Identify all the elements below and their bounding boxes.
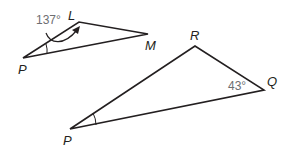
arrowhead-icon bbox=[72, 26, 80, 34]
triangle-plm bbox=[23, 22, 148, 58]
vertex-label-p-large: P bbox=[63, 133, 72, 148]
vertex-label-q: Q bbox=[267, 74, 277, 89]
vertex-label-r: R bbox=[190, 28, 199, 43]
vertex-label-p-small: P bbox=[18, 62, 27, 77]
angle-arc-p-small bbox=[46, 44, 47, 54]
angle-label-43: 43° bbox=[228, 79, 246, 93]
angle-pointer-arrow bbox=[46, 30, 77, 42]
vertex-label-l: L bbox=[68, 8, 75, 23]
vertex-label-m: M bbox=[145, 38, 156, 53]
congruent-triangles-diagram: 137° L M P 43° R Q P bbox=[0, 0, 289, 149]
angle-label-137: 137° bbox=[36, 13, 61, 27]
angle-arc-p-large bbox=[93, 113, 96, 125]
